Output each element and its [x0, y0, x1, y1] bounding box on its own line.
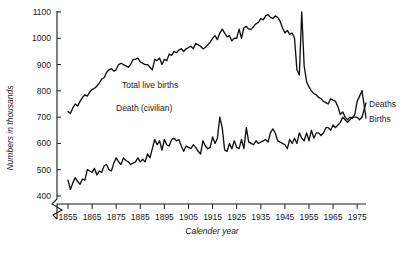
series-line-total-live-births — [68, 12, 362, 120]
y-tick-label: 1000 — [32, 33, 51, 43]
annotation-deaths-right: Deaths — [369, 99, 396, 109]
y-tick-label: 700 — [37, 112, 51, 122]
axis-tick-marks — [57, 12, 357, 209]
x-tick-label: 1905 — [179, 212, 198, 222]
x-tick-label: 1855 — [59, 212, 78, 222]
y-tick-label: 800 — [37, 86, 51, 96]
x-tick-label: 1975 — [348, 212, 367, 222]
x-tick-label: 1925 — [227, 212, 246, 222]
series-line-death-civilian — [68, 117, 362, 189]
x-tick-label: 1935 — [251, 212, 270, 222]
y-axis-title: Numbers in thousands — [5, 85, 15, 171]
x-tick-label: 1915 — [203, 212, 222, 222]
x-tick-label: 1945 — [275, 212, 294, 222]
annotation-births-right: Births — [369, 114, 391, 124]
x-tick-label: 1895 — [155, 212, 174, 222]
x-tick-label: 1955 — [300, 212, 319, 222]
annotation-total-live-births: Total live births — [122, 80, 178, 90]
y-axis-tick-labels: 40050060070080090010001100 — [32, 7, 51, 201]
x-axis-title: Calender year — [185, 226, 240, 236]
y-tick-label: 1100 — [33, 7, 52, 17]
x-tick-label: 1875 — [107, 212, 126, 222]
x-tick-label: 1865 — [83, 212, 102, 222]
x-tick-label: 1965 — [324, 212, 343, 222]
y-tick-label: 500 — [37, 165, 51, 175]
x-axis-tick-labels: 1855186518751885189519051915192519351945… — [59, 212, 367, 222]
y-tick-label: 400 — [37, 191, 51, 201]
y-tick-label: 600 — [37, 138, 51, 148]
births-deaths-line-chart: 40050060070080090010001100 1855186518751… — [0, 0, 403, 254]
annotation-death-civilian: Death (civilian) — [116, 103, 172, 113]
y-tick-label: 900 — [37, 60, 51, 70]
chart-figure: 40050060070080090010001100 1855186518751… — [0, 0, 403, 254]
x-tick-label: 1885 — [131, 212, 150, 222]
